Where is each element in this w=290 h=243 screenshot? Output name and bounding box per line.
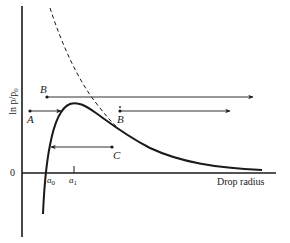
point-c-label: C <box>113 150 120 161</box>
y-axis-label: ln p/p0 <box>7 77 20 127</box>
equilibrium-curve <box>43 103 262 214</box>
y-axis-label-sub: 0 <box>12 88 20 92</box>
kelvin-dashed-curve <box>50 8 118 128</box>
origin-label: 0 <box>10 168 15 178</box>
x-axis-label: Drop radius <box>217 177 265 187</box>
diagram-canvas <box>0 0 290 243</box>
point-a-label: A <box>27 114 34 125</box>
a0-label: a0 <box>47 176 55 187</box>
point-b-left-label: B <box>40 84 47 95</box>
a1-label: a1 <box>69 176 77 187</box>
y-axis-label-base: ln p/p <box>7 92 18 115</box>
point-b-right-label: B <box>117 114 124 125</box>
point-b-right-dot-upper <box>119 106 121 108</box>
kohler-curve-diagram: ln p/p0 0 a0 a1 Drop radius B A B C <box>0 0 290 243</box>
